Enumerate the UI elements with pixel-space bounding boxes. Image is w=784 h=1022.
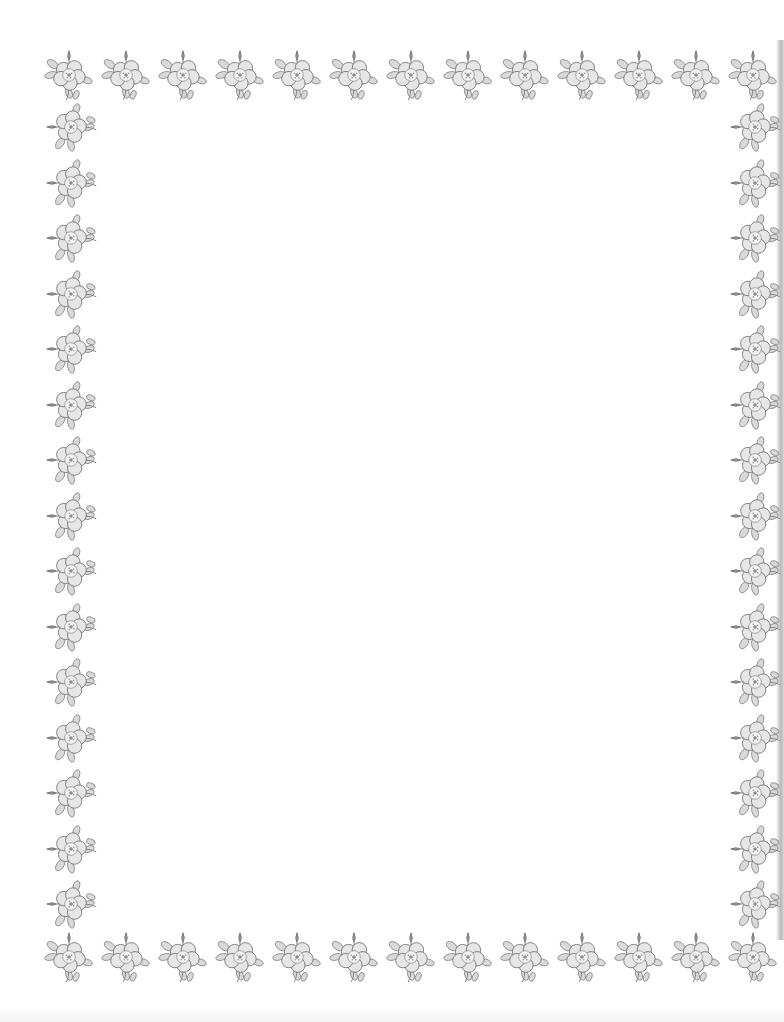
rose-icon — [44, 322, 98, 376]
rose-icon — [728, 877, 782, 931]
rose-icon — [270, 930, 324, 984]
rose-icon — [384, 48, 438, 102]
blank-writing-area — [100, 110, 720, 920]
rose-icon — [669, 930, 723, 984]
rose-icon — [44, 489, 98, 543]
rose-icon — [42, 48, 96, 102]
rose-icon — [728, 711, 782, 765]
rose-icon — [728, 156, 782, 210]
rose-icon — [728, 600, 782, 654]
rose-icon — [728, 822, 782, 876]
rose-icon — [555, 930, 609, 984]
rose-icon — [44, 711, 98, 765]
rose-icon — [44, 766, 98, 820]
rose-icon — [498, 930, 552, 984]
rose-icon — [327, 930, 381, 984]
rose-icon — [44, 156, 98, 210]
rose-icon — [44, 267, 98, 321]
rose-icon — [728, 378, 782, 432]
rose-icon — [728, 211, 782, 265]
page-bottom-edge — [0, 1008, 784, 1022]
rose-icon — [42, 930, 96, 984]
rose-icon — [156, 48, 210, 102]
rose-icon — [213, 930, 267, 984]
rose-icon — [44, 100, 98, 154]
rose-icon — [498, 48, 552, 102]
rose-icon — [441, 48, 495, 102]
rose-icon — [327, 48, 381, 102]
rose-icon — [44, 600, 98, 654]
rose-icon — [44, 655, 98, 709]
rose-icon — [728, 267, 782, 321]
rose-icon — [44, 211, 98, 265]
rose-icon — [44, 433, 98, 487]
page-edge-shadow — [776, 40, 784, 940]
rose-icon — [384, 930, 438, 984]
rose-icon — [728, 433, 782, 487]
rose-icon — [44, 544, 98, 598]
rose-icon — [99, 930, 153, 984]
rose-icon — [213, 48, 267, 102]
rose-icon — [726, 930, 780, 984]
rose-icon — [669, 48, 723, 102]
rose-icon — [728, 766, 782, 820]
rose-icon — [728, 489, 782, 543]
rose-icon — [555, 48, 609, 102]
rose-icon — [44, 877, 98, 931]
rose-icon — [612, 930, 666, 984]
rose-icon — [726, 48, 780, 102]
rose-icon — [728, 544, 782, 598]
rose-icon — [612, 48, 666, 102]
rose-icon — [728, 322, 782, 376]
rose-icon — [44, 378, 98, 432]
rose-icon — [441, 930, 495, 984]
rose-icon — [728, 100, 782, 154]
stationery-page — [0, 0, 784, 1022]
rose-icon — [99, 48, 153, 102]
rose-icon — [44, 822, 98, 876]
rose-icon — [728, 655, 782, 709]
rose-icon — [270, 48, 324, 102]
rose-icon — [156, 930, 210, 984]
